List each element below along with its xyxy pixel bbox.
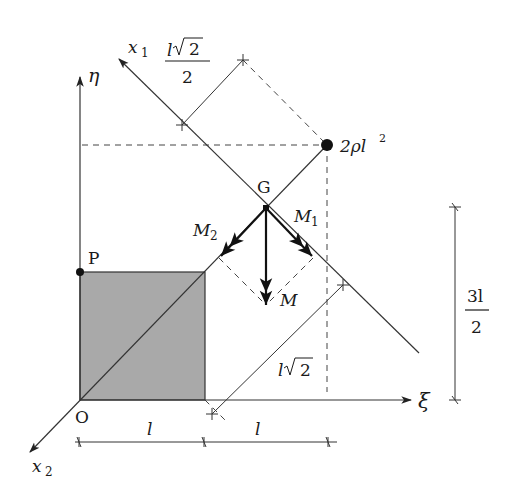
svg-text:l: l (278, 360, 283, 380)
svg-text:l: l (167, 40, 172, 60)
xi-label: ξ (418, 389, 431, 413)
svg-text:2: 2 (45, 465, 53, 479)
svg-text:2ρl: 2ρl (339, 136, 366, 156)
g-point (263, 205, 269, 211)
m-label: M (279, 290, 298, 310)
svg-text:M: M (192, 220, 211, 240)
x2-label: x 2 (32, 456, 53, 479)
dim-label-right-vertical: 3l 2 (465, 286, 489, 337)
g-label: G (257, 177, 271, 197)
x1-label: x 1 (128, 37, 149, 60)
svg-text:3l: 3l (467, 286, 483, 306)
svg-text:2: 2 (300, 360, 311, 380)
dim-label-top-diag: l 2 2 (165, 38, 210, 87)
m2-label: M 2 (192, 220, 218, 243)
svg-text:2: 2 (471, 317, 482, 337)
svg-text:2: 2 (379, 132, 386, 145)
eta-label: η (88, 64, 100, 86)
svg-text:1: 1 (141, 46, 149, 60)
p-point (76, 268, 84, 276)
dim-label-bottom-left: l (147, 419, 152, 439)
p-label: P (88, 248, 99, 268)
svg-text:x: x (32, 456, 42, 476)
m1-label: M 1 (293, 206, 319, 229)
origin-label: O (75, 407, 89, 427)
svg-text:x: x (128, 37, 138, 57)
svg-text:2: 2 (210, 229, 218, 243)
dim-label-bottom-right: l (255, 419, 260, 439)
mass-point (321, 139, 333, 151)
mechanics-diagram: η ξ x 1 x 2 O P G 2ρl 2 M 2 M 1 M l 2 2 … (0, 0, 517, 501)
dim-label-lower-diag: l 2 (278, 358, 313, 380)
svg-text:2: 2 (189, 39, 200, 59)
svg-text:2: 2 (182, 67, 193, 87)
m2-vector (221, 208, 266, 256)
svg-text:1: 1 (311, 215, 319, 229)
svg-text:M: M (293, 206, 312, 226)
mass-label: 2ρl 2 (339, 132, 386, 156)
